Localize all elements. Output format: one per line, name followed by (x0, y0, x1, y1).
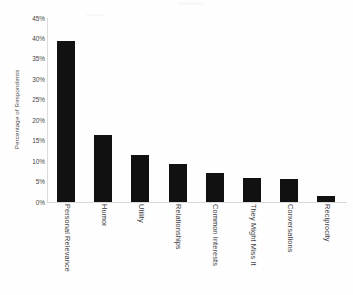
x-axis-tick-label: Common Interests (211, 204, 219, 266)
x-axis-tick-label: Utility (137, 204, 145, 223)
y-axis-tick-label: 5% (24, 178, 45, 185)
x-axis-tick-label: Personal Relevance (63, 204, 71, 272)
bar[interactable] (243, 178, 261, 202)
bar[interactable] (206, 173, 224, 202)
x-axis-tick-label: They Might Miss It (249, 204, 257, 266)
x-axis-tick-label: Conversations (286, 204, 294, 253)
y-axis-tick-label: 45% (24, 15, 45, 22)
x-axis-tick-labels: Personal RelevanceHumorUtilityRelationsh… (48, 204, 347, 295)
bar-chart-figure: Percentage of Respondents 45%40%35%30%25… (0, 0, 353, 295)
x-tick-slot: Humor (85, 204, 122, 295)
bar-slot (308, 18, 345, 202)
y-axis-tick-label: 0% (24, 199, 45, 206)
bar-slot (85, 18, 122, 202)
bar[interactable] (57, 41, 75, 203)
x-tick-slot: They Might Miss It (234, 204, 271, 295)
bar-slot (160, 18, 197, 202)
bar[interactable] (280, 179, 298, 202)
scan-artifact (86, 14, 104, 16)
y-axis-tick-label: 15% (24, 137, 45, 144)
x-tick-slot: Relationships (160, 204, 197, 295)
y-axis-tick-label: 10% (24, 158, 45, 165)
y-axis-tick-label: 25% (24, 96, 45, 103)
bar-slot (271, 18, 308, 202)
x-tick-slot: Conversations (271, 204, 308, 295)
y-axis-tick-label: 40% (24, 35, 45, 42)
bar-slot (234, 18, 271, 202)
x-tick-slot: Common Interests (197, 204, 234, 295)
bar[interactable] (317, 196, 335, 202)
x-tick-slot: Utility (122, 204, 159, 295)
bar-slot (197, 18, 234, 202)
bar-slot (48, 18, 85, 202)
y-axis-tick-labels: 45%40%35%30%25%20%15%10%5%0% (24, 0, 45, 295)
bar[interactable] (131, 155, 149, 202)
x-axis-tick-label: Relationships (174, 204, 182, 250)
plot-area (48, 18, 347, 202)
x-axis-line (47, 202, 347, 203)
x-axis-tick-label: Reciprocity (323, 204, 331, 242)
x-tick-slot: Personal Relevance (48, 204, 85, 295)
y-axis-tick-label: 35% (24, 55, 45, 62)
bar[interactable] (169, 164, 187, 202)
scan-artifact (178, 2, 204, 5)
y-axis-title: Percentage of Respondents (13, 50, 20, 170)
x-tick-slot: Reciprocity (308, 204, 345, 295)
bar[interactable] (94, 135, 112, 202)
x-axis-tick-label: Humor (100, 204, 108, 227)
y-axis-tick-label: 20% (24, 117, 45, 124)
y-axis-tick-label: 30% (24, 76, 45, 83)
bar-slot (122, 18, 159, 202)
